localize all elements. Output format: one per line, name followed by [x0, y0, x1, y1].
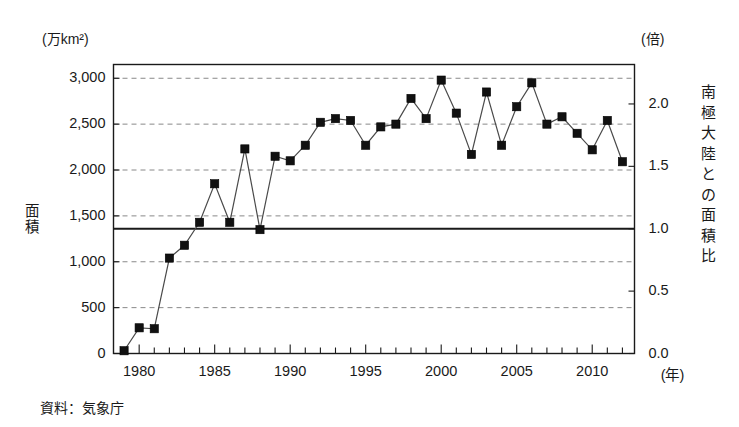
right-axis-title-char-6: の [697, 185, 719, 206]
x-tick-label-2005: 2005 [487, 363, 547, 379]
data-point: 1980: 280 [135, 324, 143, 332]
data-point: 2005: 2690 [513, 103, 521, 111]
data-point: 2011: 2540 [603, 116, 611, 124]
data-point: 2006: 2950 [528, 79, 536, 87]
gridlines [114, 78, 635, 307]
data-point: 1999: 2560 [422, 115, 430, 123]
data-point: 2007: 2500 [543, 120, 551, 128]
data-point: 1995: 2270 [362, 141, 370, 149]
x-tick-label-1990: 1990 [260, 363, 320, 379]
data-point: 2002: 2170 [467, 150, 475, 158]
right-y-tick-label-0: 0.0 [649, 345, 709, 361]
left-y-tick-label-2000: 2,000 [36, 161, 106, 177]
right-y-tick-label-1: 1.0 [649, 220, 709, 236]
x-tick-label-2000: 2000 [411, 363, 471, 379]
left-y-tick-label-2500: 2,500 [36, 115, 106, 131]
right-axis-title-char-3: 大 [697, 123, 719, 144]
data-point: 1981: 270 [150, 325, 158, 333]
left-y-tick-label-500: 500 [36, 299, 106, 315]
data-point: 2009: 2400 [573, 129, 581, 137]
data-point: 2003: 2850 [482, 88, 490, 96]
x-axis-unit-label: (年) [643, 363, 703, 384]
data-point: 2004: 2270 [498, 141, 506, 149]
data-point: 1983: 1180 [180, 241, 188, 249]
data-point: 1996: 2470 [377, 123, 385, 131]
right-y-tick-label-1-5: 1.5 [649, 157, 709, 173]
left-y-tick-label-1000: 1,000 [36, 253, 106, 269]
right-y-tick-label-0-5: 0.5 [649, 282, 709, 298]
data-point: 2001: 2620 [452, 109, 460, 117]
data-point: 1984: 1430 [195, 218, 203, 226]
data-point: 1988: 1350 [256, 226, 264, 234]
right-axis-title-char-9: 比 [697, 246, 719, 267]
data-point: 1990: 2100 [286, 157, 294, 165]
data-point: 1979: 30 [120, 347, 128, 355]
left-y-tick-label-0: 0 [36, 345, 106, 361]
plot-frame [114, 65, 635, 354]
data-point: 1993: 2560 [331, 115, 339, 123]
data-point: 1987: 2230 [241, 145, 249, 153]
left-y-tick-label-1500: 1,500 [36, 207, 106, 223]
data-point: 1998: 2780 [407, 94, 415, 102]
source-note: 資料：気象庁 [40, 397, 124, 417]
data-point: 1994: 2540 [346, 116, 354, 124]
data-point: 2012: 2090 [618, 158, 626, 166]
data-point: 2008: 2580 [558, 113, 566, 121]
data-point: 1985: 1850 [211, 180, 219, 188]
data-point: 1997: 2500 [392, 120, 400, 128]
left-axis-unit-label: (万km²) [42, 28, 89, 48]
chart-figure: (万km²) (倍) 面 積 南 極 大 陸 と の 面 積 比 1979: 3… [0, 0, 739, 427]
right-y-tick-label-2: 2.0 [649, 95, 709, 111]
x-tick-label-1995: 1995 [336, 363, 396, 379]
right-axis-unit-label: (倍) [641, 28, 664, 48]
x-tick-label-1980: 1980 [109, 363, 169, 379]
data-point: 1991: 2270 [301, 141, 309, 149]
x-tick-label-2010: 2010 [562, 363, 622, 379]
data-point: 1986: 1430 [226, 218, 234, 226]
left-y-tick-label-3000: 3,000 [36, 69, 106, 85]
data-point: 1989: 2150 [271, 152, 279, 160]
data-point: 2000: 2980 [437, 76, 445, 84]
data-point: 1982: 1040 [165, 254, 173, 262]
x-tick-label-1985: 1985 [185, 363, 245, 379]
data-point: 1992: 2520 [316, 118, 324, 126]
data-point: 2010: 2220 [588, 146, 596, 154]
